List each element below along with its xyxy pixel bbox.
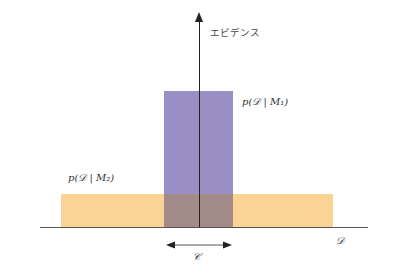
x-axis-label: 𝒟: [336, 235, 344, 247]
y-axis-label: エビデンス: [210, 25, 260, 39]
bracket-label: 𝒞: [193, 251, 200, 263]
y-axis-line: [199, 20, 200, 227]
y-axis-arrowhead-icon: [195, 12, 203, 22]
x-axis-line: [40, 227, 368, 228]
double-arrow-icon: [166, 240, 232, 250]
model-2-label: p(𝒟 | M₂): [68, 172, 114, 184]
model-1-label: p(𝒟 | M₁): [242, 96, 288, 108]
